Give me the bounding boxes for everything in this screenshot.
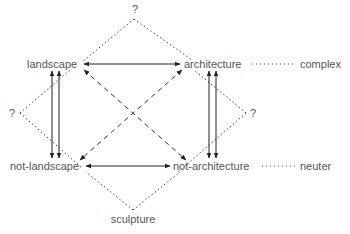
outer-dotted-diamond bbox=[20, 19, 246, 210]
label-sculpture: sculpture bbox=[111, 213, 156, 225]
label-neuter: neuter bbox=[300, 160, 332, 172]
arrow-architecture-notlandscape bbox=[80, 70, 182, 160]
dotted-line-bottom-notarchitecture bbox=[133, 172, 180, 210]
arrow-landscape-notarchitecture bbox=[84, 70, 186, 160]
label-landscape: landscape bbox=[27, 58, 77, 70]
expanded-field-diagram: ? landscape architecture complex ? ? not… bbox=[0, 0, 350, 234]
label-right-unknown: ? bbox=[250, 107, 256, 119]
dotted-line-left-landscape bbox=[20, 70, 70, 113]
label-architecture: architecture bbox=[184, 58, 241, 70]
dotted-line-right-architecture bbox=[194, 70, 246, 113]
label-not-landscape: not-landscape bbox=[10, 160, 79, 172]
label-complex: complex bbox=[300, 58, 341, 70]
label-top-unknown: ? bbox=[132, 3, 138, 15]
dotted-line-top-architecture bbox=[134, 19, 192, 60]
label-left-unknown: ? bbox=[9, 107, 15, 119]
dotted-line-top-landscape bbox=[82, 19, 134, 62]
dotted-line-bottom-notlandscape bbox=[86, 172, 133, 210]
label-not-architecture: not-architecture bbox=[173, 160, 249, 172]
